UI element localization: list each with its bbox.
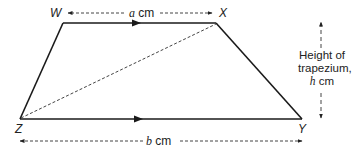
height-label: Height of trapezium, h cm (298, 49, 346, 88)
trapezium-outline (20, 23, 302, 119)
parallel-arrow-top (132, 20, 141, 27)
vertex-z-label: Z (15, 123, 22, 135)
side-b-label: b cm (146, 135, 171, 147)
diagonal-zx (21, 24, 216, 118)
side-a-label: a cm (129, 7, 154, 19)
vertex-x-label: X (219, 7, 227, 19)
vertex-y-label: Y (298, 123, 306, 135)
parallel-arrow-bottom (134, 116, 143, 123)
vertex-w-label: W (50, 7, 61, 19)
